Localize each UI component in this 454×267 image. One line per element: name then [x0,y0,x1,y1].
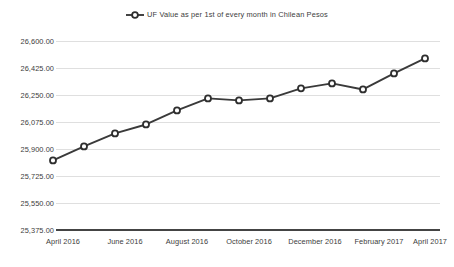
x-tick-label-april-2017: April 2017 [413,238,447,245]
x-tick-label-december-2016: December 2016 [288,238,342,245]
x-tick-label-june-2016: June 2016 [107,238,142,245]
x-tick-label-february-2017: February 2017 [354,238,403,245]
x-tick-label-august-2016: August 2016 [166,238,208,245]
x-tick-label-october-2016: October 2016 [226,238,272,245]
line-chart: UF Value as per 1st of every month in Ch… [0,0,454,267]
x-axis: April 2016 June 2016 August 2016 October… [0,0,454,267]
x-tick-label-april-2016: April 2016 [46,238,80,245]
